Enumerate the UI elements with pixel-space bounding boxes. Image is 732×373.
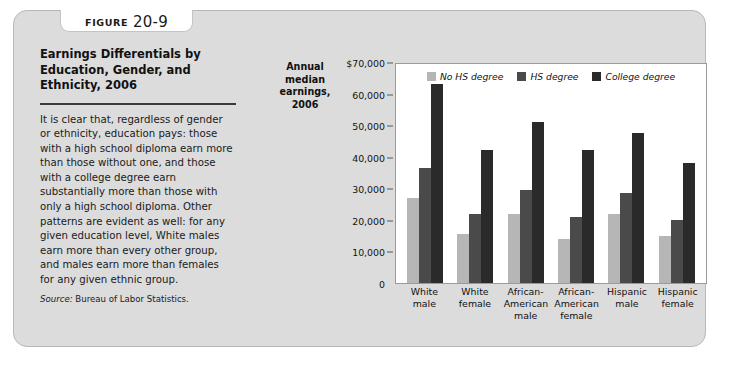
legend-item[interactable]: No HS degree xyxy=(427,71,503,82)
bar[interactable] xyxy=(508,214,520,283)
bar[interactable] xyxy=(520,190,532,283)
bar-group xyxy=(457,62,493,283)
y-axis-tick-mark xyxy=(387,126,393,127)
bar[interactable] xyxy=(431,84,443,283)
bar-group xyxy=(558,62,594,283)
bar[interactable] xyxy=(582,150,594,283)
figure-tab-word: FIGURE xyxy=(85,17,128,28)
y-axis-tick-mark xyxy=(387,63,393,64)
figure-tab-number: 20-9 xyxy=(133,13,168,31)
legend-swatch-icon xyxy=(517,72,526,81)
bar[interactable] xyxy=(659,236,671,283)
bar-group xyxy=(508,62,544,283)
y-axis-tick-label: 20,000 xyxy=(352,215,385,226)
figure-caption: Earnings Differentials by Education, Gen… xyxy=(40,47,236,305)
bar-chart: $70,00060,00050,00040,00030,00020,00010,… xyxy=(339,63,707,309)
x-axis-label: African-Americanfemale xyxy=(554,286,598,321)
bar[interactable] xyxy=(683,163,695,283)
y-axis-tick-label: 50,000 xyxy=(352,121,385,132)
y-axis-tick-label: 10,000 xyxy=(352,247,385,258)
x-axis-label: Hispanicfemale xyxy=(656,286,700,321)
figure-body-text: It is clear that, regardless of gender o… xyxy=(40,113,236,288)
legend-swatch-icon xyxy=(427,72,436,81)
bar[interactable] xyxy=(457,234,469,283)
x-axis-label: Whitemale xyxy=(402,286,446,321)
figure-source: Source: Bureau of Labor Statistics. xyxy=(40,293,236,305)
legend-swatch-icon xyxy=(592,72,601,81)
y-axis-tick-mark xyxy=(387,252,393,253)
source-text: Bureau of Labor Statistics. xyxy=(75,294,188,304)
figure-tab-label: FIGURE 20-9 xyxy=(60,12,193,32)
bar-group xyxy=(659,62,695,283)
bar[interactable] xyxy=(481,150,493,283)
bar[interactable] xyxy=(620,193,632,283)
plot-area: No HS degreeHS degreeCollege degree xyxy=(395,63,707,284)
y-axis: $70,00060,00050,00040,00030,00020,00010,… xyxy=(339,63,393,284)
y-axis-tick-mark xyxy=(387,157,393,158)
chart-legend: No HS degreeHS degreeCollege degree xyxy=(396,71,706,82)
bar[interactable] xyxy=(469,214,481,283)
y-axis-tick-label: 40,000 xyxy=(352,152,385,163)
y-axis-tick-mark xyxy=(387,220,393,221)
bar-group xyxy=(608,62,644,283)
y-axis-tick-mark xyxy=(387,189,393,190)
y-axis-title: Annual median earnings, 2006 xyxy=(272,61,338,111)
bar[interactable] xyxy=(558,239,570,283)
bar[interactable] xyxy=(608,214,620,283)
bar[interactable] xyxy=(407,198,419,283)
caption-divider xyxy=(40,103,236,105)
x-axis-label: Whitefemale xyxy=(453,286,497,321)
bar[interactable] xyxy=(532,122,544,283)
bar[interactable] xyxy=(671,220,683,283)
y-axis-tick-label: 30,000 xyxy=(352,184,385,195)
legend-item[interactable]: HS degree xyxy=(517,71,578,82)
bar[interactable] xyxy=(570,217,582,283)
figure-panel: FIGURE 20-9 Earnings Differentials by Ed… xyxy=(13,10,706,347)
legend-item[interactable]: College degree xyxy=(592,71,675,82)
y-axis-tick-mark xyxy=(387,94,393,95)
x-axis-label: African-Americanmale xyxy=(504,286,548,321)
legend-label: College degree xyxy=(605,71,675,82)
bar-group xyxy=(407,62,443,283)
figure-title: Earnings Differentials by Education, Gen… xyxy=(40,47,236,94)
y-axis-tick-label: 0 xyxy=(379,279,385,290)
bar[interactable] xyxy=(632,133,644,283)
y-axis-tick-label: 60,000 xyxy=(352,89,385,100)
legend-label: HS degree xyxy=(530,71,578,82)
bar[interactable] xyxy=(419,168,431,283)
bar-groups xyxy=(396,62,706,283)
legend-label: No HS degree xyxy=(440,71,503,82)
y-axis-tick-label: $70,000 xyxy=(346,58,385,69)
x-axis-labels: WhitemaleWhitefemaleAfrican-Americanmale… xyxy=(395,286,707,321)
x-axis-label: Hispanicmale xyxy=(605,286,649,321)
source-label: Source: xyxy=(40,294,73,304)
